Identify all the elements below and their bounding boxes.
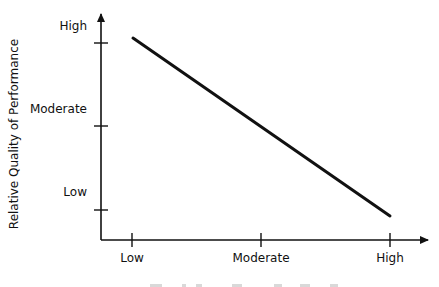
y-tick-label-low: Low (63, 185, 87, 199)
x-tick-label-low: Low (120, 251, 144, 265)
y-axis-title: Relative Quality of Performance (7, 39, 21, 229)
y-tick-label-high: High (59, 19, 87, 33)
chart: High Moderate Low Low Moderate High Rela… (0, 0, 439, 287)
performance-line (133, 38, 390, 216)
x-tick-label-high: High (376, 251, 404, 265)
y-tick-label-moderate: Moderate (30, 102, 87, 116)
x-tick-label-moderate: Moderate (232, 251, 289, 265)
